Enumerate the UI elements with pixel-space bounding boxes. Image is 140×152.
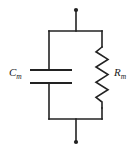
resistor-label: Rm xyxy=(114,67,126,78)
resistor-label-symbol: R xyxy=(114,66,121,78)
circuit-diagram: Cm Rm xyxy=(0,0,140,152)
capacitor-label: Cm xyxy=(9,67,22,78)
resistor-zigzag xyxy=(96,47,108,108)
resistor-label-subscript: m xyxy=(121,72,126,81)
top-terminal-dot xyxy=(74,8,78,12)
capacitor-label-subscript: m xyxy=(16,72,21,81)
bottom-terminal-dot xyxy=(74,140,78,144)
